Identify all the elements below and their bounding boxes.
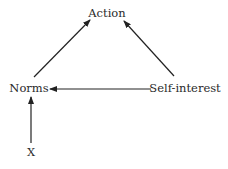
edge-norms-to-action (34, 20, 90, 77)
node-norms: Norms (9, 83, 48, 95)
edge-self-interest-to-action (124, 21, 174, 76)
node-action: Action (88, 8, 125, 20)
node-x: X (27, 147, 35, 159)
node-self-interest: Self-interest (149, 83, 220, 95)
